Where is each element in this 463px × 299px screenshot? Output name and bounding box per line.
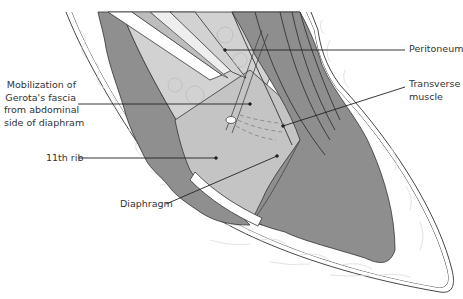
label-11th-rib: 11th rib	[46, 152, 83, 165]
label-transverse-muscle: Transverse muscle	[409, 78, 460, 103]
label-diaphragm: Diaphragm	[120, 198, 173, 211]
label-mobilization-gerotas-fascia: Mobilization of Gerota's fascia from abd…	[4, 79, 76, 129]
small-oval-marker	[226, 117, 236, 124]
label-peritoneum: Peritoneum	[409, 43, 463, 56]
